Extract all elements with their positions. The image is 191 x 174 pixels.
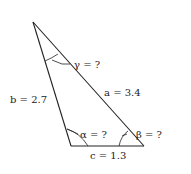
- side-a-line: [33, 22, 144, 146]
- side-c-label: c = 1.3: [90, 150, 126, 161]
- beta-arc: [119, 131, 128, 146]
- alpha-label: α = ?: [80, 129, 107, 140]
- triangle-diagram: γ = ? a = 3.4 b = 2.7 α = ? β = ? c = 1.…: [0, 0, 191, 174]
- triangle: [33, 22, 144, 146]
- alpha-leader: [67, 129, 78, 134]
- side-b-label: b = 2.7: [10, 94, 47, 105]
- gamma-arc: [45, 54, 58, 61]
- side-b-line: [33, 22, 71, 146]
- gamma-label: γ = ?: [74, 59, 100, 70]
- side-a-label: a = 3.4: [104, 87, 141, 98]
- beta-label: β = ?: [136, 129, 162, 140]
